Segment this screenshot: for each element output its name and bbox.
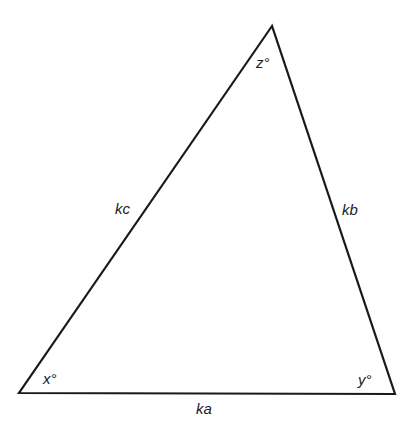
side-label-right: kb: [342, 202, 358, 217]
side-label-left: kc: [115, 201, 130, 216]
side-label-bottom: ka: [196, 401, 212, 416]
triangle-shape: [19, 26, 395, 394]
angle-label-bottom-right: y°: [358, 372, 372, 387]
angle-label-bottom-left: x°: [43, 371, 57, 386]
angle-label-top: z°: [256, 55, 270, 70]
